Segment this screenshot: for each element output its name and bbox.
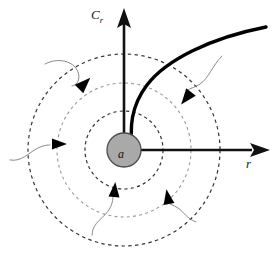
flow-arrow-upper-left-icon: [75, 73, 95, 93]
flow-arrow-bottom-left-icon: [109, 182, 121, 198]
horizontal-axis-arrow-icon: [250, 143, 270, 157]
flow-arrow-left-icon: [52, 139, 67, 150]
horizontal-axis-label: r: [246, 157, 251, 170]
leader-line-bottom-right: [168, 203, 196, 222]
leader-line-upper-left: [45, 61, 79, 86]
core-circle: [107, 133, 141, 167]
leader-line-left: [10, 145, 50, 160]
flow-arrow-upper-right-icon: [176, 88, 195, 108]
streamline-curve: [131, 27, 266, 152]
vertical-axis-label-main: C: [91, 7, 100, 22]
leader-line-upper-right: [188, 56, 222, 90]
vertical-axis-label-subscript: r: [100, 15, 104, 25]
polar-flow-diagram: [0, 0, 278, 257]
vertical-axis-label: Cr: [91, 8, 103, 25]
core-radius-label: a: [118, 148, 124, 160]
figure-container: Cr r a: [0, 0, 278, 257]
